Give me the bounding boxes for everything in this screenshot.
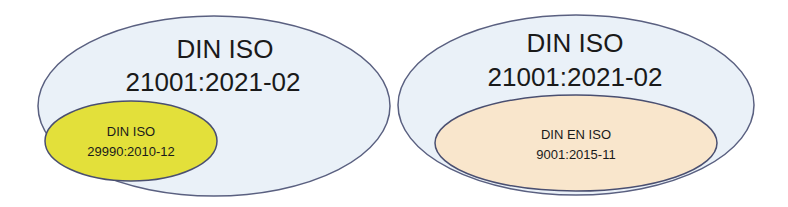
inner-label-line2: 29990:2010-12 [87, 144, 174, 159]
diagram-right: DIN ISO 21001:2021-02 DIN EN ISO 9001:20… [398, 15, 754, 195]
outer-label-line2: 21001:2021-02 [488, 62, 663, 92]
inner-label-line2: 9001:2015-11 [536, 147, 615, 162]
diagram-left: DIN ISO 21001:2021-02 DIN ISO 29990:2010… [38, 16, 390, 196]
venn-diagrams: DIN ISO 21001:2021-02 DIN ISO 29990:2010… [0, 0, 788, 207]
inner-ellipse-din-iso-29990 [45, 101, 217, 181]
inner-ellipse-din-en-iso-9001 [435, 95, 717, 191]
outer-label-line1: DIN ISO [177, 34, 274, 64]
inner-label-line1: DIN EN ISO [541, 127, 611, 142]
outer-label-line2: 21001:2021-02 [126, 67, 301, 97]
outer-label-line1: DIN ISO [527, 28, 624, 58]
inner-label-line1: DIN ISO [107, 124, 155, 139]
